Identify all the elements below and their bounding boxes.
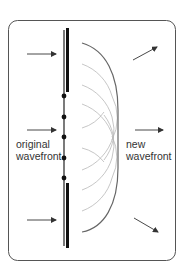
wavelet-3 (82, 104, 113, 170)
source-dot (62, 94, 67, 99)
arrow-down-right-icon (134, 218, 158, 232)
source-dot (62, 115, 67, 120)
original-label-line2: wavefront (16, 150, 62, 162)
wavelet-1b (82, 112, 104, 128)
source-dot (62, 176, 67, 181)
wavelet-5b (82, 148, 104, 162)
source-dot (62, 156, 67, 161)
new-wavefront-label: new wavefront (126, 138, 172, 162)
barrier-top (66, 28, 69, 92)
incoming-arrows (27, 54, 56, 220)
huygens-diagram (0, 0, 182, 271)
original-label-line1: original (16, 138, 62, 150)
secondary-wavelets (82, 64, 117, 211)
source-dot (62, 135, 67, 140)
barrier-bottom (66, 183, 69, 248)
wavelet-1 (82, 64, 117, 140)
arrow-up-right-icon (133, 47, 157, 60)
new-label-line1: new (126, 138, 172, 150)
original-wavefront-label: original wavefront (16, 138, 62, 162)
wavelet-5 (82, 136, 117, 211)
new-label-line2: wavefront (126, 150, 172, 162)
